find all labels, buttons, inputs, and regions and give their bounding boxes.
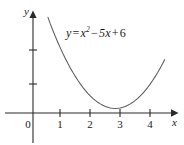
- equation-annotation: y=x2−5x+6: [66, 27, 126, 40]
- equation-equals: =: [72, 26, 81, 40]
- x-tick-label-4: 4: [143, 119, 157, 130]
- y-axis-label: y: [24, 6, 29, 17]
- x-axis-label: x: [172, 117, 177, 128]
- x-tick-label-2: 2: [83, 119, 97, 130]
- x-tick-label-3: 3: [113, 119, 127, 130]
- origin-label: 0: [21, 119, 35, 130]
- equation-constant: 6: [120, 26, 126, 40]
- x-tick-label-1: 1: [53, 119, 67, 130]
- equation-lhs: y: [66, 26, 72, 40]
- parabola-figure: y=x2−5x+6 y x 0 1 2 3 4: [0, 0, 184, 145]
- equation-minus: −: [90, 26, 99, 40]
- equation-plus: +: [111, 26, 120, 40]
- equation-linear-term: 5x: [99, 26, 111, 40]
- y-axis-arrowhead: [29, 11, 36, 19]
